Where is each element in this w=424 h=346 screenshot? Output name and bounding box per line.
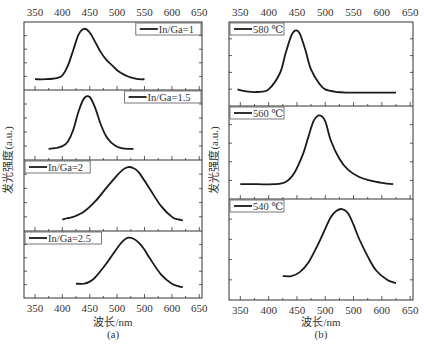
- bottom-tick-label: 500: [136, 302, 153, 314]
- legend: 540 ℃: [230, 200, 284, 212]
- top-tick-label: 350: [232, 6, 249, 18]
- legend-label: 560 ℃: [253, 108, 283, 119]
- legend-label: 580 ℃: [253, 24, 283, 35]
- top-tick-label: 350: [27, 6, 44, 18]
- bottom-tick-label: 600: [164, 302, 181, 314]
- bottom-tick-label: 450: [289, 304, 306, 316]
- spectrum-curve: [283, 209, 396, 283]
- y-axis-label: 发光强度(a.u.): [1, 126, 15, 194]
- legend-label: In/Ga=1.5: [148, 92, 191, 103]
- spectrum-curve: [76, 238, 183, 288]
- chart-figure: 3504004505005506006503504004505005006006…: [0, 0, 424, 346]
- top-tick-label: 600: [164, 6, 181, 18]
- x-axis-label: 波长/nm: [93, 316, 133, 328]
- top-tick-label: 500: [317, 6, 334, 18]
- spectrum-curve: [238, 30, 397, 92]
- bottom-tick-label: 450: [81, 302, 98, 314]
- bottom-tick-label: 500: [109, 302, 126, 314]
- top-tick-label: 400: [54, 6, 71, 18]
- plot-frame: [229, 22, 413, 300]
- bottom-tick-label: 650: [191, 302, 208, 314]
- subfigure-label: (b): [315, 328, 328, 341]
- legend: In/Ga=1: [136, 23, 201, 35]
- plot-b: 3504004505005506006503504004505005006006…: [207, 6, 419, 341]
- top-tick-label: 600: [374, 6, 391, 18]
- x-axis-label: 波长/nm: [301, 316, 341, 328]
- legend-label: In/Ga=2.5: [48, 233, 91, 244]
- legend: 560 ℃: [230, 107, 284, 119]
- top-tick-label: 650: [191, 6, 208, 18]
- bottom-tick-label: 500: [317, 304, 334, 316]
- bottom-tick-label: 650: [402, 304, 419, 316]
- bottom-tick-label: 600: [374, 304, 391, 316]
- bottom-tick-label: 500: [345, 304, 362, 316]
- spectrum-curve: [240, 115, 393, 184]
- bottom-tick-label: 350: [232, 304, 249, 316]
- spectrum-curve: [35, 29, 145, 80]
- top-tick-label: 500: [109, 6, 126, 18]
- top-tick-label: 550: [136, 6, 153, 18]
- y-axis-label: 发光强度(a.u.): [207, 126, 221, 194]
- legend-label: In/Ga=2: [48, 162, 83, 173]
- top-tick-label: 450: [81, 6, 98, 18]
- top-tick-label: 550: [345, 6, 362, 18]
- bottom-tick-label: 400: [260, 304, 277, 316]
- top-tick-label: 400: [260, 6, 277, 18]
- legend-label: 540 ℃: [253, 201, 283, 212]
- top-tick-label: 650: [402, 6, 419, 18]
- legend: In/Ga=2: [25, 161, 90, 173]
- top-tick-label: 450: [289, 6, 306, 18]
- legend: 580 ℃: [230, 23, 284, 35]
- bottom-tick-label: 400: [54, 302, 71, 314]
- subfigure-label: (a): [107, 328, 120, 341]
- legend-label: In/Ga=1: [159, 24, 194, 35]
- bottom-tick-label: 350: [27, 302, 44, 314]
- legend: In/Ga=1.5: [125, 91, 201, 103]
- plot-a: 3504004505005506006503504004505005006006…: [1, 6, 208, 341]
- spectrum-curve: [49, 96, 134, 149]
- legend: In/Ga=2.5: [25, 232, 101, 244]
- spectrum-curve: [62, 167, 183, 220]
